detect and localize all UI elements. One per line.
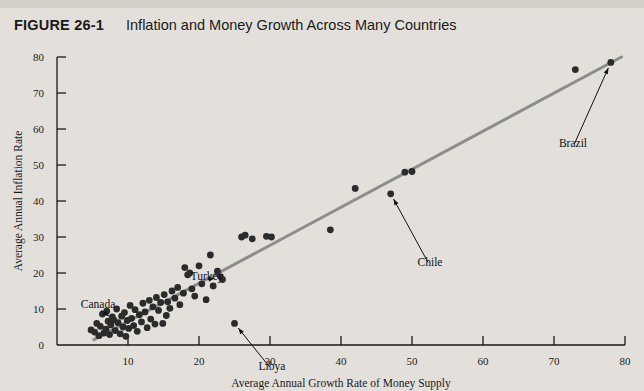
data-point [176,301,183,308]
data-point [572,66,579,73]
y-tick-label: 0 [39,339,45,351]
x-tick-label: 20 [194,355,206,367]
annotation-leader [394,199,429,262]
data-point [169,288,176,295]
y-tick-label: 70 [33,87,45,99]
data-point [152,321,159,328]
data-point [140,300,147,307]
x-tick-label: 50 [407,355,419,367]
data-point [120,324,127,331]
data-point [231,320,238,327]
annotation-label: Libya [259,360,286,373]
data-point [268,234,275,241]
data-point [171,295,178,302]
y-tick-label: 20 [33,267,45,279]
data-point [174,284,181,291]
data-point [106,331,113,338]
data-point [181,264,188,271]
data-point [138,319,145,326]
scatter-plot: 010203040506070801020304050607080 Canada… [0,40,644,391]
data-point [387,190,394,197]
data-point [402,169,409,176]
data-point [122,333,129,340]
data-point [203,296,210,303]
data-point [130,322,137,329]
data-point [166,305,173,312]
data-point [180,290,187,297]
data-point [242,232,249,239]
annotation-label: Turkey [191,270,224,283]
y-axis-title: Average Annual Inflation Rate [12,131,25,272]
page-top-band [0,0,644,8]
data-point [352,185,359,192]
data-point [249,235,256,242]
data-point [157,299,164,306]
data-point [142,308,149,315]
y-tick-label: 10 [33,303,45,315]
figure-caption: FIGURE 26-1 Inflation and Money Growth A… [14,17,456,33]
annotations-group: CanadaTurkeyLibyaChileBrazil [81,68,609,373]
data-points-group [88,59,615,340]
annotation-label: Canada [81,298,115,310]
data-point [164,298,171,305]
y-tick-label: 80 [33,51,45,63]
data-point [146,297,153,304]
axis-titles-group: Average Annual Growth Rate of Money Supp… [12,131,451,390]
data-point [134,328,141,335]
data-point [607,59,614,66]
data-point [191,293,198,300]
x-tick-label: 40 [336,355,348,367]
annotation-label: Chile [418,256,443,268]
figure-number: FIGURE 26-1 [14,17,104,33]
x-tick-label: 60 [478,355,490,367]
data-point [196,262,203,269]
x-tick-label: 10 [123,355,135,367]
data-point [207,252,214,259]
data-point [409,168,416,175]
data-point [128,315,135,322]
annotation-arrowhead [604,68,609,74]
page-title: Inflation and Money Growth Across Many C… [126,17,456,33]
data-point [149,303,156,310]
x-tick-label: 80 [620,355,632,367]
data-point [159,320,166,327]
y-tick-label: 40 [33,195,45,207]
y-tick-label: 30 [33,231,45,243]
figure-page: FIGURE 26-1 Inflation and Money Growth A… [0,0,644,391]
x-tick-label: 70 [549,355,561,367]
data-point [155,307,162,314]
data-point [121,309,128,316]
y-tick-label: 60 [33,123,45,135]
x-axis-title: Average Annual Growth Rate of Money Supp… [231,377,451,390]
y-tick-label: 50 [33,159,45,171]
chart-canvas: 010203040506070801020304050607080 Canada… [0,40,644,391]
annotation-label: Brazil [559,137,587,149]
data-point [189,285,196,292]
data-point [210,283,217,290]
data-point [327,226,334,233]
annotation-arrowhead [394,199,399,205]
data-point [144,324,151,331]
data-point [163,312,170,319]
data-point [161,291,168,298]
